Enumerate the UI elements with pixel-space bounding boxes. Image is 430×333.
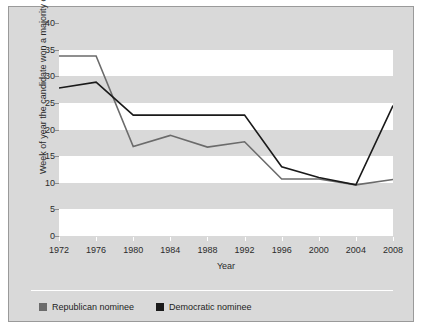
- y-axis-tick-label: 25: [33, 98, 55, 108]
- y-axis-tick-mark: [55, 130, 59, 131]
- y-axis-tick-mark: [55, 236, 59, 237]
- y-axis-tick-label: 15: [33, 151, 55, 161]
- legend-swatch-icon: [156, 303, 164, 311]
- x-axis-tick-label: 1988: [187, 245, 227, 255]
- x-axis-tick-mark: [170, 237, 171, 241]
- x-axis-tick-label: 2004: [336, 245, 376, 255]
- legend-swatch-icon: [39, 303, 47, 311]
- x-axis-tick-mark: [356, 237, 357, 241]
- x-axis-tick-label: 1992: [225, 245, 265, 255]
- x-axis-tick-mark: [59, 237, 60, 241]
- legend-label: Democratic nominee: [169, 302, 252, 312]
- y-axis-tick-label: 40: [33, 18, 55, 28]
- y-axis-tick-mark: [55, 209, 59, 210]
- y-axis-tick-mark: [55, 76, 59, 77]
- y-axis-tick-mark: [55, 183, 59, 184]
- legend-entry: Republican nominee: [39, 302, 134, 312]
- x-axis-tick-mark: [282, 237, 283, 241]
- series-lines: [59, 23, 393, 236]
- chart-panel: Week of year the candidate won a majorit…: [8, 6, 414, 322]
- legend-entry: Democratic nominee: [156, 302, 252, 312]
- x-axis-tick-label: 1976: [76, 245, 116, 255]
- legend-label: Republican nominee: [52, 302, 134, 312]
- x-axis-tick-label: 1972: [39, 245, 79, 255]
- y-axis-tick-mark: [55, 103, 59, 104]
- x-axis-tick-label: 1996: [262, 245, 302, 255]
- legend-divider: [31, 290, 393, 291]
- x-axis-title: Year: [59, 261, 393, 271]
- y-axis-tick-labels: 0510152025303540: [27, 23, 55, 236]
- x-axis-tick-marks: [59, 237, 393, 242]
- x-axis-tick-mark: [207, 237, 208, 241]
- y-axis-tick-label: 5: [33, 204, 55, 214]
- x-axis-tick-label: 2008: [373, 245, 413, 255]
- y-axis-tick-label: 0: [33, 231, 55, 241]
- y-axis-tick-label: 10: [33, 178, 55, 188]
- x-axis-tick-mark: [319, 237, 320, 241]
- y-axis-tick-mark: [55, 23, 59, 24]
- series-line: [59, 82, 393, 185]
- x-axis-tick-mark: [245, 237, 246, 241]
- y-axis-tick-label: 35: [33, 45, 55, 55]
- plot-area: [59, 23, 393, 236]
- y-axis-tick-mark: [55, 156, 59, 157]
- x-axis-tick-mark: [393, 237, 394, 241]
- x-axis-tick-mark: [96, 237, 97, 241]
- y-axis-tick-label: 20: [33, 125, 55, 135]
- series-line: [59, 56, 393, 185]
- chart-figure: Week of year the candidate won a majorit…: [0, 0, 430, 333]
- x-axis-tick-label: 2000: [299, 245, 339, 255]
- y-axis-tick-label: 30: [33, 71, 55, 81]
- x-axis-tick-label: 1980: [113, 245, 153, 255]
- y-axis-tick-mark: [55, 50, 59, 51]
- x-axis-tick-label: 1984: [150, 245, 190, 255]
- chart-region: Week of year the candidate won a majorit…: [9, 7, 413, 321]
- x-axis-tick-mark: [133, 237, 134, 241]
- chart-legend: Republican nomineeDemocratic nominee: [39, 299, 252, 315]
- x-axis-tick-labels: 1972197619801984198819921996200020042008: [59, 245, 393, 257]
